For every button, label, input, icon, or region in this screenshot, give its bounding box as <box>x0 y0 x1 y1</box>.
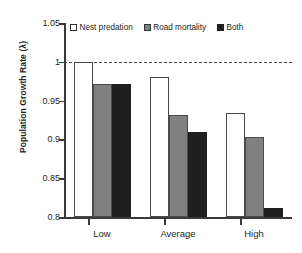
legend-swatch-icon <box>70 24 77 31</box>
legend-label: Road mortality <box>153 23 206 32</box>
y-tick-mark <box>59 62 65 64</box>
y-tick-label: 0.9 <box>24 134 60 144</box>
bar <box>169 115 188 217</box>
y-axis-tick-labels: 0.80.850.90.9511.05 <box>24 0 60 253</box>
bar <box>226 113 245 217</box>
y-tick-label: 1 <box>24 57 60 67</box>
y-tick-label: 0.95 <box>24 96 60 106</box>
bar <box>93 84 112 217</box>
bars-layer <box>64 23 292 219</box>
bar-chart-figure: Population Growth Rate (λ) 0.80.850.90.9… <box>0 0 302 253</box>
x-tick-mark <box>88 219 90 225</box>
x-category-label: Average <box>160 228 195 239</box>
bar <box>112 84 131 217</box>
bar <box>245 137 264 217</box>
y-tick-mark <box>59 23 65 25</box>
y-tick-label: 1.05 <box>24 18 60 28</box>
legend-label: Both <box>227 23 244 32</box>
legend-item: Nest predation <box>70 23 133 32</box>
bar <box>74 62 93 217</box>
y-tick-mark <box>59 101 65 103</box>
legend-swatch-icon <box>144 24 151 31</box>
x-axis-category-labels: LowAverageHigh <box>64 228 292 248</box>
legend-label: Nest predation <box>80 23 133 32</box>
y-tick-mark <box>59 139 65 141</box>
y-tick-mark <box>59 178 65 180</box>
x-category-label: Low <box>93 228 110 239</box>
chart-legend: Nest predationRoad mortalityBoth <box>70 23 243 32</box>
legend-item: Road mortality <box>144 23 206 32</box>
bar <box>188 132 207 217</box>
legend-item: Both <box>217 23 243 32</box>
x-tick-mark <box>164 219 166 225</box>
y-tick-label: 0.85 <box>24 173 60 183</box>
y-tick-mark <box>59 217 65 219</box>
x-tick-mark <box>240 219 242 225</box>
bar <box>150 77 169 217</box>
bar <box>264 208 283 217</box>
x-category-label: High <box>244 228 264 239</box>
y-tick-label: 0.8 <box>24 212 60 222</box>
plot-area <box>64 23 292 219</box>
legend-swatch-icon <box>217 24 224 31</box>
